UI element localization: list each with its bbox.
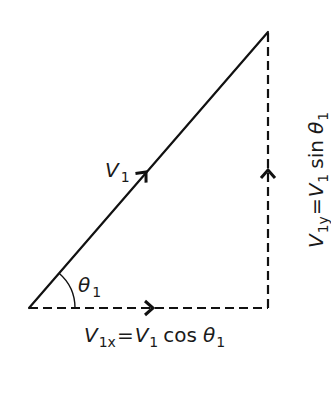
- angle-arc-icon: [59, 273, 75, 308]
- x-angle-symbol: θ: [203, 323, 215, 347]
- vector-decomposition-diagram: θ1 V1 V1x=V1cosθ1 V1y=V1sinθ1: [0, 0, 331, 395]
- x-func: cos: [163, 323, 197, 347]
- y-angle-subscript: 1: [315, 112, 331, 121]
- y-func: sin: [304, 140, 328, 169]
- x-angle-subscript: 1: [216, 334, 225, 350]
- vector-v1-label: V1: [105, 158, 130, 185]
- x-lhs-subscript: 1x: [99, 334, 116, 350]
- angle-subscript: 1: [92, 284, 101, 300]
- x-rhs-symbol: V: [135, 323, 150, 347]
- y-angle-symbol: θ: [304, 122, 328, 134]
- vector-v1-line: [29, 32, 268, 308]
- x-rhs-subscript: 1: [149, 334, 158, 350]
- x-lhs-symbol: V: [84, 323, 99, 347]
- y-lhs-subscript: 1y: [315, 216, 331, 233]
- x-component-formula: V1x=V1cosθ1: [84, 323, 225, 350]
- vector-symbol: V: [105, 158, 120, 182]
- angle-label: θ1: [78, 273, 101, 300]
- y-equals: =: [304, 198, 328, 215]
- vector-subscript: 1: [121, 169, 130, 185]
- x-equals: =: [117, 323, 134, 347]
- y-rhs-symbol: V: [304, 182, 328, 197]
- y-component-formula: V1y=V1sinθ1: [304, 112, 331, 248]
- angle-symbol: θ: [78, 273, 90, 297]
- y-lhs-symbol: V: [304, 233, 328, 248]
- y-rhs-subscript: 1: [315, 174, 331, 183]
